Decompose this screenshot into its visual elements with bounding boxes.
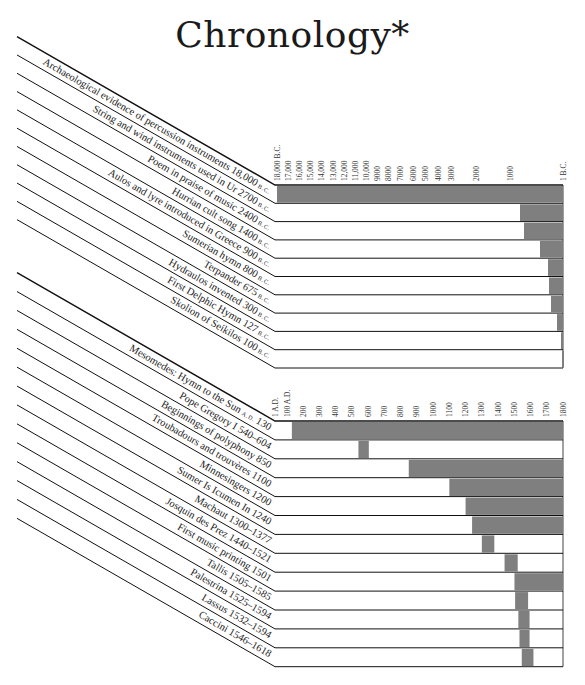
event-duration-bar <box>551 296 563 313</box>
axis-tick-label: 1600 <box>526 402 535 417</box>
event-duration-bar <box>292 422 563 439</box>
event-duration-bar <box>505 554 518 571</box>
row-divider-line <box>17 220 563 368</box>
axis-tick-label: 16,000 <box>295 160 304 181</box>
event-duration-bar <box>540 241 563 258</box>
axis-tick-label: 7000 <box>396 166 405 181</box>
event-duration-bar <box>466 498 563 515</box>
event-duration-bar <box>524 223 563 240</box>
axis-tick-label: 100 A.D. <box>283 390 292 417</box>
axis-tick-label: 1300 <box>477 402 486 417</box>
axis-tick-label: 1200 <box>461 402 470 417</box>
event-duration-bar <box>518 611 529 628</box>
event-duration-bar <box>449 479 563 496</box>
row-divider-line <box>17 518 563 666</box>
axis-tick-label: 1400 <box>494 402 503 417</box>
axis-tick-label: 1000 <box>429 402 438 417</box>
axis-tick-label: 1100 <box>445 402 454 417</box>
axis-tick-label: 9000 <box>373 166 382 181</box>
axis-tick-label: 2000 <box>472 166 481 181</box>
axis-tick-label: 800 <box>396 406 405 418</box>
axis-tick-label: 600 <box>364 406 373 418</box>
axis-tick-label: 6000 <box>409 166 418 181</box>
axis-tick-label: 900 <box>412 406 421 418</box>
axis-tick-label: 300 <box>315 406 324 418</box>
axis-tick-label: 1 A.D. <box>271 397 280 417</box>
axis-tick-label: 17,000 <box>284 160 293 181</box>
axis-tick-label: 14,000 <box>317 160 326 181</box>
axis-tick-label: 10,000 <box>362 160 371 181</box>
axis-tick-label: 200 <box>299 406 308 418</box>
event-duration-bar <box>561 332 563 349</box>
axis-tick-label: 1800 <box>559 402 568 417</box>
event-duration-bar <box>519 630 529 647</box>
event-duration-bar <box>557 314 563 331</box>
event-duration-bar <box>514 573 563 590</box>
row-divider-line <box>17 110 563 258</box>
axis-tick-label: 11,000 <box>351 160 360 181</box>
axis-tick-label: 1 B.C. <box>559 161 568 181</box>
axis-tick-label: 18,000 B.C. <box>273 145 282 181</box>
axis-tick-label: 15,000 <box>306 160 315 181</box>
event-duration-bar <box>562 351 564 368</box>
axis-tick-label: 5000 <box>421 166 430 181</box>
event-duration-bar <box>358 441 368 458</box>
axis-tick-label: 400 <box>331 406 340 418</box>
axis-tick-label: 4000 <box>434 166 443 181</box>
chronology-chart: 18,000 B.C.17,00016,00015,00014,00013,00… <box>0 0 585 685</box>
axis-tick-label: 500 <box>347 406 356 418</box>
axis-tick-label: 1000 <box>506 166 515 181</box>
event-duration-bar <box>482 535 495 552</box>
event-duration-bar <box>515 592 528 609</box>
axis-tick-label: 1500 <box>510 402 519 417</box>
axis-tick-label: 13,000 <box>329 160 338 181</box>
event-duration-bar <box>522 649 534 666</box>
axis-tick-label: 8000 <box>384 166 393 181</box>
row-divider-line <box>17 183 563 331</box>
event-duration-bar <box>472 517 563 534</box>
event-duration-bar <box>548 259 563 276</box>
axis-tick-label: 700 <box>380 406 389 418</box>
event-duration-bar <box>520 204 563 221</box>
row-divider-line <box>17 201 563 349</box>
bc-timeline-panel: 18,000 B.C.17,00016,00015,00014,00013,00… <box>17 37 568 368</box>
event-duration-bar <box>277 186 563 203</box>
axis-tick-label: 12,000 <box>340 160 349 181</box>
event-duration-bar <box>549 278 563 295</box>
axis-tick-label: 1700 <box>542 402 551 417</box>
event-duration-bar <box>409 460 563 477</box>
axis-tick-label: 3000 <box>447 166 456 181</box>
